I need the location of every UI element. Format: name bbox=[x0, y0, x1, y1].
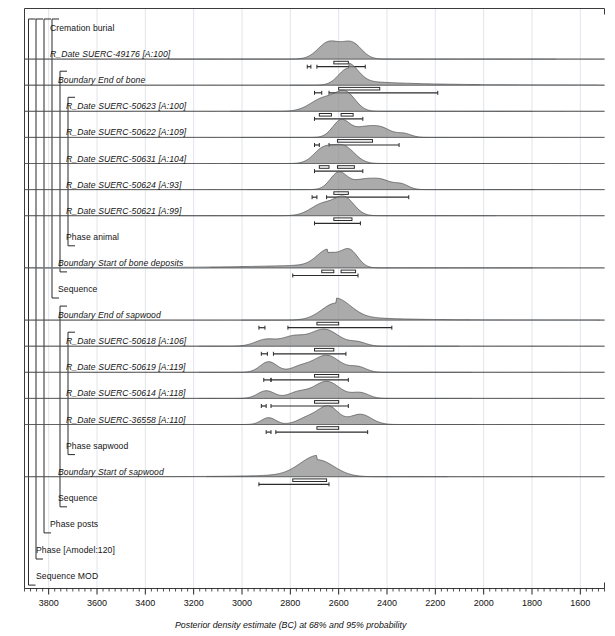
oxcal-plot-figure: Cremation burialR_Date SUERC-49176 [A:10… bbox=[0, 0, 615, 636]
row-label-date: R_Date SUERC-49176 [A:100] bbox=[50, 49, 170, 59]
axis-ticks bbox=[25, 589, 605, 595]
row-label-boundary: Boundary End of sapwood bbox=[58, 310, 161, 320]
row-label-date: R_Date SUERC-50631 [A:104] bbox=[66, 154, 186, 164]
row-label-group: Cremation burial bbox=[50, 23, 114, 33]
axis-title: Posterior density estimate (BC) at 68% a… bbox=[175, 620, 406, 630]
row-label-group: Sequence MOD bbox=[36, 571, 98, 581]
row-label-date: R_Date SUERC-50619 [A:119] bbox=[66, 362, 186, 372]
row-label-group: Phase sapwood bbox=[66, 441, 128, 451]
row-label-date: R_Date SUERC-50621 [A:99] bbox=[66, 206, 181, 216]
row-label-date: R_Date SUERC-50624 [A:93] bbox=[66, 180, 181, 190]
row-label-boundary: Boundary Start of bone deposits bbox=[58, 258, 183, 268]
gridlines bbox=[49, 9, 581, 589]
row-label-date: R_Date SUERC-50614 [A:118] bbox=[66, 388, 186, 398]
axis-tick-label: 1600 bbox=[550, 598, 610, 608]
plot-frame bbox=[25, 9, 605, 589]
row-label-boundary: Boundary End of bone bbox=[58, 75, 145, 85]
row-label-date: R_Date SUERC-50623 [A:100] bbox=[66, 101, 186, 111]
row-label-group: Phase [Amodel:120] bbox=[36, 545, 115, 555]
row-label-group: Sequence bbox=[58, 493, 97, 503]
row-label-group: Sequence bbox=[58, 284, 97, 294]
row-label-group: Phase posts bbox=[50, 519, 98, 529]
row-label-group: Phase animal bbox=[66, 232, 119, 242]
row-label-date: R_Date SUERC-36558 [A:110] bbox=[66, 415, 186, 425]
row-label-date: R_Date SUERC-50622 [A:109] bbox=[66, 127, 186, 137]
row-label-boundary: Boundary Start of sapwood bbox=[58, 467, 164, 477]
row-label-date: R_Date SUERC-50618 [A:106] bbox=[66, 336, 186, 346]
